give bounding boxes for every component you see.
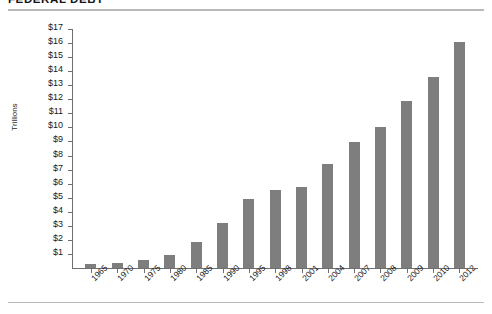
y-axis-tick-label: $9	[53, 134, 63, 144]
bar	[428, 77, 439, 268]
y-axis-tick-label: $1	[53, 247, 63, 257]
bar	[112, 263, 123, 268]
bar	[322, 164, 333, 268]
y-axis-title: Trillions	[10, 82, 19, 152]
y-axis-tick-label: $2	[53, 233, 63, 243]
y-axis-tick-label: $7	[53, 163, 63, 173]
bar	[85, 264, 96, 268]
bar	[270, 190, 281, 268]
y-axis-tick-label: $3	[53, 219, 63, 229]
y-axis-tick-label: $15	[48, 50, 63, 60]
y-axis-tick-label: $10	[48, 120, 63, 130]
y-axis-tick-label: $13	[48, 78, 63, 88]
bar	[375, 127, 386, 268]
y-axis-tick-label: $16	[48, 36, 63, 46]
plot-area	[72, 29, 476, 268]
bar	[217, 223, 228, 268]
y-axis-tick-label: $8	[53, 149, 63, 159]
bar	[296, 187, 307, 268]
y-axis-tick-label: $11	[49, 106, 63, 116]
chart-figure: FEDERAL DEBT Trillions $1$2$3$4$5$6$7$8$…	[0, 0, 492, 314]
bar	[349, 142, 360, 268]
bar	[191, 242, 202, 268]
chart-title: FEDERAL DEBT	[8, 0, 104, 5]
bar	[454, 42, 465, 268]
bar	[401, 101, 412, 268]
bar	[243, 199, 254, 268]
y-axis-tick-label: $4	[53, 205, 63, 215]
y-axis-tick-label: $17	[48, 22, 63, 32]
bar	[138, 260, 149, 268]
y-axis-tick-label: $5	[53, 191, 63, 201]
bar	[164, 255, 175, 268]
bottom-divider	[8, 302, 484, 303]
y-axis-tick-label: $6	[53, 177, 63, 187]
y-axis-tick-label: $14	[48, 64, 63, 74]
title-divider	[8, 9, 484, 11]
y-axis-tick-label: $12	[48, 92, 63, 102]
